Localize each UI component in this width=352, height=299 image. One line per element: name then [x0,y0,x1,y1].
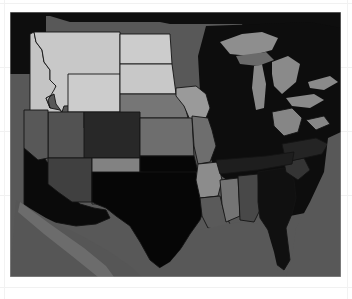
page-rule-line [4,0,5,299]
page-rule-line [347,0,348,299]
page-canvas [0,0,352,299]
state-kansas[interactable] [140,118,194,156]
state-alabama[interactable] [238,174,260,222]
state-north-dakota[interactable] [120,34,172,64]
page-rule-line [0,287,352,288]
page-rule-line [0,3,352,4]
state-wyoming[interactable] [68,74,120,112]
choropleth-map-figure [10,12,341,277]
state-oklahoma[interactable] [140,156,198,174]
us-choropleth-svg [10,12,341,277]
state-colorado[interactable] [84,112,140,158]
state-south-dakota[interactable] [120,64,176,94]
